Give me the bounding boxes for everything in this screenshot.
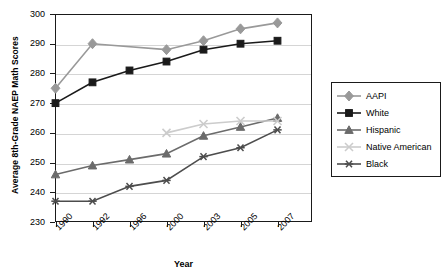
legend-item-label: Native American — [362, 143, 432, 152]
y-tick-mark — [50, 133, 55, 134]
x-tick-mark — [204, 222, 205, 227]
x-tick-mark — [278, 222, 279, 227]
y-tick-mark — [50, 14, 55, 15]
x-tick-label: 1996 — [128, 212, 149, 233]
legend-item-label: White — [362, 109, 389, 118]
y-tick-mark — [50, 222, 55, 223]
data-point-asterisk — [345, 161, 353, 168]
legend-item-hispanic[interactable]: Hispanic — [336, 123, 401, 137]
legend-item-aapi[interactable]: AAPI — [336, 89, 387, 103]
x-tick-label: 2005 — [239, 212, 260, 233]
chart-legend: AAPIWhiteHispanicNative AmericanBlack — [331, 82, 441, 177]
legend-marker-square-icon — [336, 106, 362, 120]
legend-item-label: Hispanic — [362, 126, 401, 135]
legend-item-label: Black — [362, 160, 388, 169]
y-tick-mark — [50, 192, 55, 193]
legend-item-white[interactable]: White — [336, 106, 389, 120]
legend-marker-diamond-icon — [336, 89, 362, 103]
x-tick-mark — [56, 222, 57, 227]
x-tick-label: 1992 — [91, 212, 112, 233]
x-tick-label: 2007 — [276, 212, 297, 233]
x-tick-mark — [130, 222, 131, 227]
x-tick-label: 2000 — [165, 212, 186, 233]
legend-item-label: AAPI — [362, 92, 387, 101]
x-tick-label: 2003 — [202, 212, 223, 233]
x-tick-mark — [241, 222, 242, 227]
x-axis-title: Year — [55, 259, 312, 269]
y-tick-mark — [50, 73, 55, 74]
x-tick-mark — [93, 222, 94, 227]
legend-marker-x-icon — [336, 140, 362, 154]
x-tick-label: 1990 — [54, 212, 75, 233]
naep-math-scores-line-chart: Average 8th-Grade NAEP Math Scores 30029… — [0, 0, 446, 276]
y-tick-mark — [50, 44, 55, 45]
x-tick-mark — [167, 222, 168, 227]
legend-marker-triangle-icon — [336, 123, 362, 137]
data-point-diamond — [345, 91, 354, 101]
legend-item-native-american[interactable]: Native American — [336, 140, 432, 154]
legend-marker-asterisk-icon — [336, 157, 362, 171]
data-point-square — [346, 110, 353, 117]
y-tick-mark — [50, 103, 55, 104]
y-tick-mark — [50, 163, 55, 164]
legend-item-black[interactable]: Black — [336, 157, 388, 171]
